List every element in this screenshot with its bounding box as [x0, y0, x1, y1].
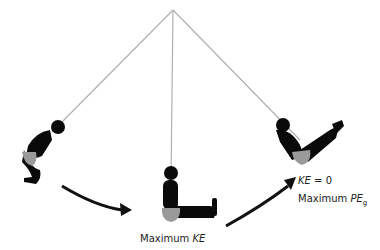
label-text: = 0 — [311, 175, 332, 186]
label-var: KE — [192, 233, 205, 244]
label-text: Maximum — [298, 193, 350, 204]
label-var: KE — [298, 175, 311, 186]
ropes — [52, 10, 300, 180]
swinger-right-figure — [276, 118, 344, 165]
label-maximum-peg: Maximum PEg — [298, 193, 367, 207]
label-text: Maximum — [140, 233, 192, 244]
label-subscript: g — [363, 199, 367, 207]
label-ke-zero: KE = 0 — [298, 175, 332, 186]
swinger-bottom-figure — [162, 166, 217, 222]
pendulum-diagram: Maximum KE KE = 0 Maximum PEg — [0, 0, 380, 250]
diagram-graphic — [0, 0, 380, 250]
swinger-left-figure — [22, 120, 65, 184]
label-var: PE — [350, 193, 362, 204]
label-maximum-ke: Maximum KE — [140, 233, 205, 244]
